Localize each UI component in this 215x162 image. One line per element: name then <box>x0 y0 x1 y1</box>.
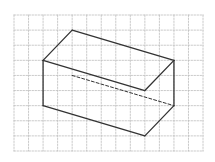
dotted-grid <box>14 15 203 151</box>
box-visible-edges <box>43 30 174 136</box>
cuboid-grid-figure <box>0 0 215 162</box>
